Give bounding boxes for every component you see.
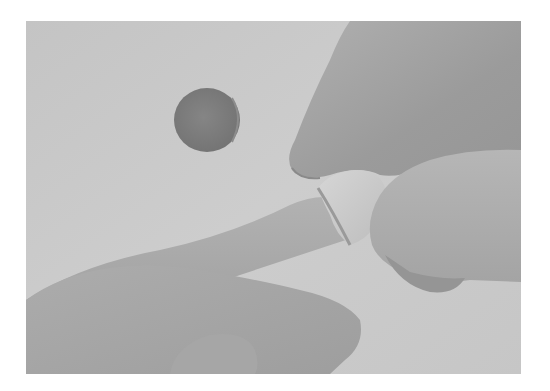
photo-illustration [26, 21, 521, 374]
disc [174, 88, 240, 152]
photo [26, 21, 521, 374]
